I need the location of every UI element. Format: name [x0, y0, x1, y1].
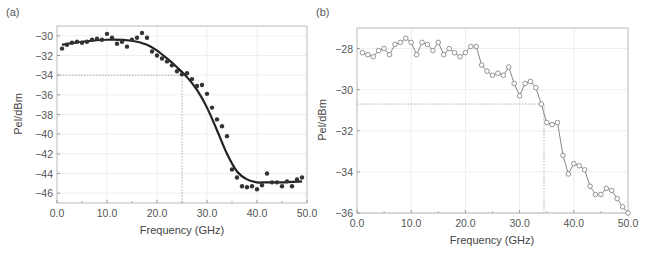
data-point	[496, 71, 501, 76]
y-tick-label: −36	[335, 207, 353, 219]
data-point	[506, 65, 511, 70]
y-tick-label: −34	[35, 69, 53, 81]
data-point	[155, 53, 159, 57]
data-point	[110, 36, 114, 40]
data-point	[436, 40, 441, 45]
data-point	[60, 46, 64, 50]
data-point	[431, 48, 436, 53]
fit-curve-a	[62, 40, 302, 183]
data-point	[130, 38, 134, 42]
data-point	[572, 161, 577, 166]
data-point	[65, 42, 69, 46]
data-point	[290, 184, 294, 188]
data-point	[80, 41, 84, 45]
data-point	[582, 168, 587, 173]
data-point	[382, 46, 387, 51]
y-tick-label: −28	[335, 43, 353, 55]
data-point	[566, 172, 571, 177]
data-point	[195, 84, 199, 88]
axis-ticks-a: 0.010.020.030.040.050.0−30−32−34−36−38−4…	[35, 30, 317, 219]
data-point	[398, 40, 403, 45]
reference-lines-b	[357, 104, 544, 213]
data-point	[285, 179, 289, 183]
data-point	[474, 44, 479, 49]
data-point	[105, 32, 109, 36]
x-axis-label-b: Frequency (GHz)	[450, 234, 534, 246]
plot-frame-b	[357, 28, 628, 213]
data-point	[170, 63, 174, 67]
data-point	[425, 42, 430, 47]
data-points-b	[360, 36, 630, 215]
panel-label-b: (b)	[316, 6, 329, 18]
y-tick-label: −30	[335, 84, 353, 96]
data-point	[469, 44, 474, 49]
data-point	[160, 56, 164, 60]
data-point	[360, 50, 365, 55]
data-point	[604, 186, 609, 191]
panel-label-a: (a)	[6, 6, 19, 18]
data-point	[280, 184, 284, 188]
data-point	[463, 50, 468, 55]
data-point	[190, 77, 194, 81]
y-tick-label: −46	[35, 187, 53, 199]
data-point	[180, 72, 184, 76]
data-point	[245, 185, 249, 189]
data-point	[120, 40, 124, 44]
data-point	[175, 69, 179, 73]
data-point	[200, 83, 204, 87]
data-point	[544, 120, 549, 125]
data-point	[626, 211, 631, 216]
data-point	[615, 196, 620, 201]
data-point	[577, 163, 582, 168]
data-point	[250, 184, 254, 188]
x-tick-label: 50.0	[618, 217, 639, 229]
data-point	[534, 85, 539, 90]
x-tick-label: 50.0	[297, 207, 318, 219]
data-point	[479, 63, 484, 68]
data-points-a	[60, 31, 304, 192]
data-point	[165, 59, 169, 63]
x-tick-label: 40.0	[247, 207, 268, 219]
data-point	[125, 44, 129, 48]
y-tick-label: −36	[35, 89, 53, 101]
y-tick-label: −40	[35, 128, 53, 140]
data-point	[255, 187, 259, 191]
data-point	[512, 81, 517, 86]
data-point	[230, 167, 234, 171]
data-point	[75, 40, 79, 44]
data-point	[528, 79, 533, 84]
data-point	[90, 38, 94, 42]
x-tick-label: 30.0	[509, 217, 530, 229]
data-point	[215, 117, 219, 121]
data-point	[420, 40, 425, 45]
y-tick-label: −34	[335, 166, 353, 178]
data-point	[620, 205, 625, 210]
data-point	[458, 54, 463, 59]
data-point	[539, 102, 544, 107]
x-tick-label: 10.0	[401, 217, 422, 229]
y-tick-label: −42	[35, 148, 53, 160]
data-point	[135, 36, 139, 40]
data-point	[490, 73, 495, 78]
data-point	[140, 31, 144, 35]
data-point	[393, 42, 398, 47]
y-axis-label-b: Pel/dBm	[316, 99, 328, 141]
x-tick-label: 0.0	[50, 207, 65, 219]
data-point	[550, 122, 555, 127]
data-point	[366, 52, 371, 57]
data-point	[555, 120, 560, 125]
data-point	[452, 50, 457, 55]
data-point	[220, 124, 224, 128]
y-tick-label: −32	[335, 125, 353, 137]
data-point	[70, 41, 74, 45]
data-point	[115, 42, 119, 46]
data-point	[100, 38, 104, 42]
y-tick-label: −44	[35, 168, 53, 180]
data-point	[485, 69, 490, 74]
x-tick-label: 40.0	[564, 217, 585, 229]
x-tick-label: 20.0	[455, 217, 476, 229]
data-point	[447, 46, 452, 51]
data-point	[265, 171, 269, 175]
data-point	[300, 175, 304, 179]
data-point	[599, 192, 604, 197]
